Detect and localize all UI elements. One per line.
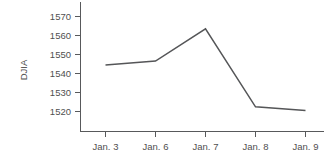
line-chart-figure: 1570 1560 1550 1540 1530 1520 DJIA Jan. …: [0, 0, 331, 159]
y-tick-label-1530: 1530: [50, 87, 71, 98]
x-tick-label-jan-9: Jan. 9: [293, 141, 319, 152]
x-tick-label-jan-7: Jan. 7: [193, 141, 219, 152]
y-axis-title: DJIA: [18, 59, 29, 80]
y-tick-label-1520: 1520: [50, 106, 71, 117]
y-tick-label-1570: 1570: [50, 11, 71, 22]
y-tick-label-1540: 1540: [50, 68, 71, 79]
data-series-line-djia: [106, 29, 306, 111]
y-tick-label-1550: 1550: [50, 49, 71, 60]
x-tick-label-jan-8: Jan. 8: [243, 141, 269, 152]
x-tick-label-jan-3: Jan. 3: [93, 141, 119, 152]
x-tick-label-jan-6: Jan. 6: [143, 141, 169, 152]
chart-canvas: 1570 1560 1550 1540 1530 1520 DJIA Jan. …: [0, 0, 331, 159]
y-tick-label-1560: 1560: [50, 30, 71, 41]
